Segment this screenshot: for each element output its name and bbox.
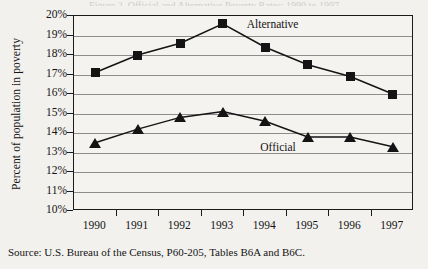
y-axis-tick-mark: [67, 132, 73, 133]
y-axis-tick-mark: [67, 93, 73, 94]
y-axis-tick-mark: [67, 15, 73, 16]
y-axis-tick-labels: 20%19%18%17%16%15%14%13%12%11%10%: [15, 15, 67, 210]
y-axis-tick-label: 12%: [21, 165, 67, 177]
y-axis-tick-label: 13%: [21, 146, 67, 158]
x-axis-tick-mark: [158, 210, 159, 216]
y-axis-tick-mark: [67, 152, 73, 153]
y-axis-tick-mark: [67, 54, 73, 55]
x-axis-tick-mark: [201, 210, 202, 216]
x-axis-tick-mark: [243, 210, 244, 216]
y-axis-tick-label: 17%: [21, 68, 67, 80]
series-label-alternative: Alternative: [247, 18, 299, 30]
figure-container: Percent of population in poverty 20%19%1…: [0, 0, 428, 269]
y-axis-tick-label: 16%: [21, 87, 67, 99]
x-axis-tick-mark: [328, 210, 329, 216]
y-axis-tick-label: 14%: [21, 126, 67, 138]
y-axis-tick-mark: [67, 74, 73, 75]
y-axis-tick-label: 19%: [21, 29, 67, 41]
series-annotations: AlternativeOfficial: [74, 16, 412, 209]
y-axis-tick-mark: [67, 171, 73, 172]
series-label-official: Official: [260, 141, 296, 153]
source-caption: Source: U.S. Bureau of the Census, P60-2…: [8, 246, 305, 259]
x-axis-tick-label: 1997: [367, 219, 417, 232]
y-axis-tick-label: 20%: [21, 9, 67, 21]
y-axis-tick-label: 10%: [21, 204, 67, 216]
x-axis-tick-mark: [286, 210, 287, 216]
plot-area: AlternativeOfficial: [73, 15, 413, 210]
y-axis-tick-label: 15%: [21, 107, 67, 119]
y-axis-tick-mark: [67, 191, 73, 192]
y-axis-tick-mark: [67, 113, 73, 114]
y-axis-tick-label: 18%: [21, 48, 67, 60]
y-axis-tick-mark: [67, 35, 73, 36]
y-axis-tick-mark: [67, 210, 73, 211]
x-axis-tick-mark: [116, 210, 117, 216]
x-axis-tick-mark: [371, 210, 372, 216]
y-axis-tick-label: 11%: [21, 185, 67, 197]
